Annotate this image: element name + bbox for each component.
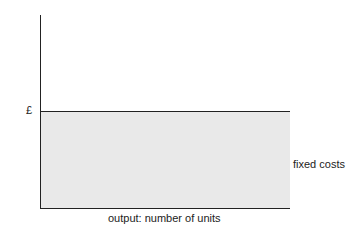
fixed-costs-area <box>41 112 290 208</box>
fixed-cost-diagram <box>0 0 359 232</box>
fixed-costs-label: fixed costs <box>293 158 345 170</box>
x-axis-label: output: number of units <box>108 212 221 224</box>
y-axis-label: £ <box>26 104 32 116</box>
